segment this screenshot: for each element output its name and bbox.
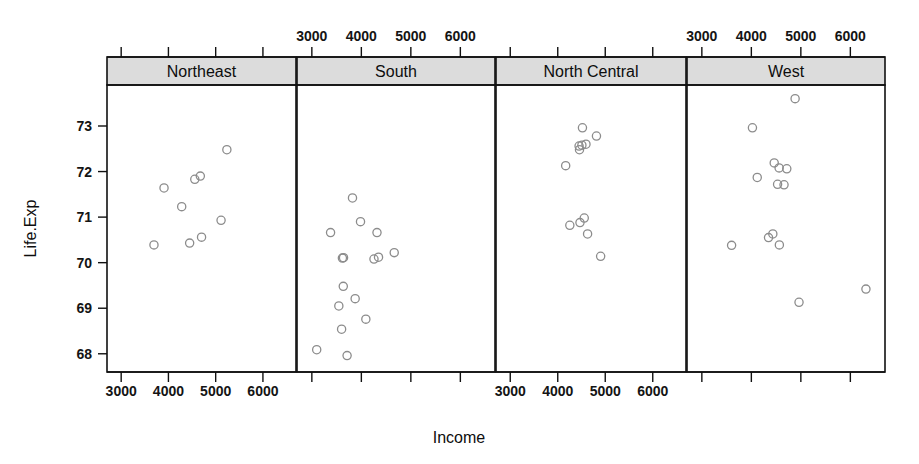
data-point [197,233,205,241]
data-point [343,352,351,360]
plot-canvas: 686970717273Life.ExpIncomeNortheast30004… [0,0,919,464]
data-point [160,184,168,192]
data-point [178,203,186,211]
panel-south: South3000400050006000 [296,28,495,382]
y-tick-label: 69 [76,300,92,316]
data-point [775,164,783,172]
data-point [390,249,398,257]
y-tick-label: 73 [76,118,92,134]
panel-frame-0 [107,85,296,372]
x-tick-label-0-1: 4000 [153,383,184,399]
strip-label-2: North Central [543,63,638,80]
data-point [748,124,756,132]
x-axis-title: Income [433,429,486,446]
data-point [335,302,343,310]
x-tick-label-1-3: 6000 [445,28,476,44]
panel-frame-1 [297,85,495,372]
data-point [362,315,370,323]
data-point [217,216,225,224]
x-tick-label-0-2: 5000 [200,383,231,399]
data-point [326,229,334,237]
y-tick-label: 68 [76,346,92,362]
data-point [583,230,591,238]
data-point [339,282,347,290]
x-tick-label-3-0: 3000 [686,28,717,44]
data-point [775,241,783,249]
data-point [356,218,364,226]
y-tick-label: 70 [76,255,92,271]
data-point [338,325,346,333]
x-tick-label-1-1: 4000 [346,28,377,44]
data-point [562,162,570,170]
strip-label-1: South [375,63,417,80]
y-tick-label: 72 [76,164,92,180]
data-point [150,241,158,249]
panel-west: West3000400050006000 [686,28,885,382]
x-tick-label-3-2: 5000 [785,28,816,44]
x-tick-label-2-1: 4000 [542,383,573,399]
data-point [373,229,381,237]
x-tick-label-1-0: 3000 [296,28,327,44]
trellis-scatterplot: 686970717273Life.ExpIncomeNortheast30004… [0,0,919,464]
data-point [592,132,600,140]
x-tick-label-2-3: 6000 [637,383,668,399]
data-point [578,124,586,132]
x-tick-label-2-0: 3000 [495,383,526,399]
data-point [313,346,321,354]
panel-frame-3 [687,85,885,372]
data-point [223,146,231,154]
data-point [597,252,605,260]
data-point [783,165,791,173]
strip-label-0: Northeast [167,63,237,80]
data-point [728,241,736,249]
data-point [753,173,761,181]
y-axis-title: Life.Exp [22,199,39,257]
x-tick-label-0-3: 6000 [247,383,278,399]
data-point [862,285,870,293]
panel-north-central: North Central3000400050006000 [495,47,686,399]
data-point [566,221,574,229]
data-point [795,298,803,306]
x-tick-label-1-2: 5000 [395,28,426,44]
panel-frame-2 [496,85,686,372]
y-tick-label: 71 [76,209,92,225]
x-tick-label-3-1: 4000 [736,28,767,44]
x-tick-label-3-3: 6000 [835,28,866,44]
y-axis: 686970717273 [76,118,107,362]
x-tick-label-0-0: 3000 [106,383,137,399]
data-point [770,159,778,167]
data-point [186,239,194,247]
strip-label-3: West [768,63,805,80]
data-point [351,295,359,303]
x-tick-label-2-2: 5000 [590,383,621,399]
data-point [791,95,799,103]
panel-northeast: Northeast3000400050006000 [106,47,296,399]
data-point [348,194,356,202]
